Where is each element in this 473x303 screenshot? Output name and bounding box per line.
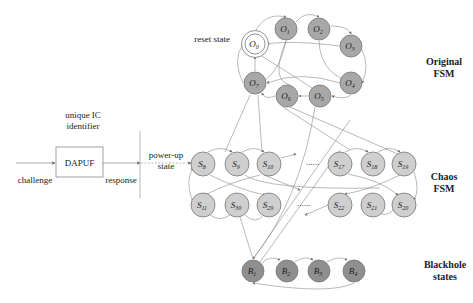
powerup-line1: power-up bbox=[149, 150, 184, 160]
state-node-s18: S18 bbox=[361, 152, 385, 176]
state-node-o0: O0 bbox=[242, 31, 269, 58]
chaos-fsm-label-1: Chaos bbox=[431, 171, 458, 182]
state-node-s19: S19 bbox=[392, 152, 416, 176]
state-node-b2: B2 bbox=[276, 260, 298, 282]
state-node-o5: O5 bbox=[309, 85, 331, 107]
chaos-fsm-label-2: FSM bbox=[433, 183, 455, 194]
state-node-o6: O6 bbox=[276, 85, 298, 107]
original-fsm-label-2: FSM bbox=[433, 68, 455, 79]
blackhole-label-1: Blackhole bbox=[424, 259, 467, 270]
state-node-s10: S10 bbox=[257, 152, 281, 176]
identifier-line1: unique IC bbox=[65, 110, 101, 120]
challenge-label: challenge bbox=[18, 175, 52, 185]
state-node-s8: S8 bbox=[191, 152, 215, 176]
state-node-s17: S17 bbox=[328, 152, 352, 176]
blackhole-label-2: states bbox=[433, 271, 457, 282]
fsm-diagram: unique IC identifier DAPUF challenge res… bbox=[0, 0, 473, 303]
identifier-line2: identifier bbox=[67, 121, 100, 131]
state-node-b3: B3 bbox=[308, 260, 330, 282]
original-fsm-nodes: O0O1O2O3O4O5O6O7 bbox=[242, 18, 363, 107]
dapuf-section: unique IC identifier DAPUF challenge res… bbox=[16, 110, 191, 198]
state-node-s11: S11 bbox=[191, 193, 215, 217]
dapuf-label: DAPUF bbox=[65, 158, 95, 168]
blackhole-nodes: B1B2B3B4 bbox=[242, 260, 365, 282]
ellipsis-bottom: ...... bbox=[297, 198, 311, 208]
state-node-o2: O2 bbox=[308, 18, 330, 40]
state-node-o3: O3 bbox=[340, 35, 362, 57]
state-node-o7: O7 bbox=[244, 72, 266, 94]
state-node-o4: O4 bbox=[340, 72, 362, 94]
state-node-s22: S22 bbox=[328, 193, 352, 217]
state-node-s30: S30 bbox=[225, 193, 249, 217]
state-node-s9: S9 bbox=[225, 152, 249, 176]
reset-state-label: reset state bbox=[194, 34, 230, 44]
response-label: response bbox=[105, 175, 137, 185]
state-node-b1: B1 bbox=[242, 260, 264, 282]
state-node-o1: O1 bbox=[275, 18, 297, 40]
powerup-line2: state bbox=[158, 161, 175, 171]
state-node-b4: B4 bbox=[343, 260, 365, 282]
state-node-s29: S29 bbox=[257, 193, 281, 217]
state-node-s20: S20 bbox=[392, 193, 416, 217]
edges bbox=[189, 14, 417, 289]
state-node-s21: S21 bbox=[361, 193, 385, 217]
ellipsis-top: ...... bbox=[306, 157, 320, 167]
original-fsm-label-1: Original bbox=[426, 56, 462, 67]
